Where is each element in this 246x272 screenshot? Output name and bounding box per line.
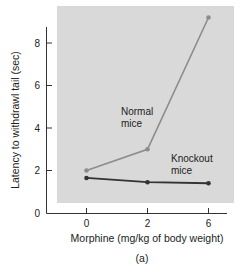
x-tick-labels: 0 2 6 — [84, 218, 212, 229]
data-point — [206, 181, 211, 186]
svg-text:0: 0 — [34, 208, 40, 219]
plot-background — [57, 6, 234, 203]
figure-caption: (a) — [136, 252, 149, 264]
svg-text:2: 2 — [145, 218, 151, 229]
svg-text:8: 8 — [34, 38, 40, 49]
chart: 8 6 4 2 0 0 2 6 Morphine (mg/kg of body … — [0, 0, 246, 272]
x-ticks — [87, 208, 209, 214]
y-tick-labels: 8 6 4 2 0 — [34, 38, 40, 220]
data-point — [84, 168, 89, 173]
data-point — [145, 180, 150, 185]
svg-text:2: 2 — [34, 165, 40, 176]
svg-text:Normal: Normal — [121, 106, 153, 117]
svg-text:6: 6 — [34, 80, 40, 91]
svg-text:4: 4 — [34, 123, 40, 134]
data-point — [206, 15, 211, 20]
svg-text:mice: mice — [121, 118, 143, 129]
svg-text:mice: mice — [171, 165, 193, 176]
data-point — [145, 147, 150, 152]
x-axis-label: Morphine (mg/kg of body weight) — [71, 232, 224, 244]
svg-text:Knockout: Knockout — [171, 153, 213, 164]
svg-text:0: 0 — [84, 218, 90, 229]
y-axis-label: Latency to withdrawl tail (sec) — [9, 51, 21, 189]
svg-text:6: 6 — [206, 218, 212, 229]
data-point — [84, 176, 89, 181]
